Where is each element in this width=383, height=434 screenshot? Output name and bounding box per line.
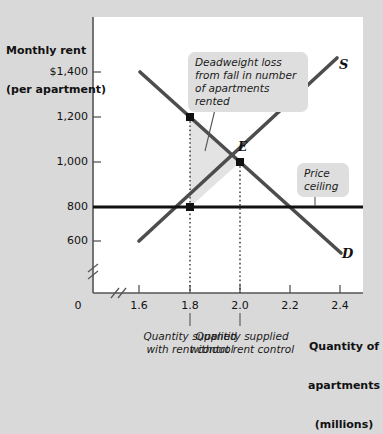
y-tick-label-1400: $1,400 <box>20 65 88 78</box>
price-ceiling-callout-line2: ceiling <box>304 180 342 193</box>
x-tick-label-1-8: 1.8 <box>170 299 210 312</box>
y-axis-title-line1: Monthly rent <box>6 44 90 57</box>
y-tick-label-1200: 1,200 <box>20 110 88 123</box>
price-ceiling-callout: Price ceiling <box>297 163 349 197</box>
y-tick-label-800: 800 <box>20 200 88 213</box>
x-axis-origin-label: 0 <box>68 299 88 312</box>
x-tick-label-1-6: 1.6 <box>119 299 159 312</box>
supply-curve-label: S <box>339 57 348 72</box>
equilibrium-point-label: E <box>238 140 247 154</box>
x-axis-title-line3: (millions) <box>306 418 382 431</box>
note-without-rent-control-line1: Quantity supplied <box>173 330 311 343</box>
deadweight-loss-callout-line1: Deadweight loss <box>195 56 301 69</box>
y-axis-ticks <box>93 72 101 241</box>
deadweight-loss-callout: Deadweight loss from fall in number of a… <box>188 52 308 112</box>
x-axis-title-line2: apartments <box>306 379 382 392</box>
y-tick-label-600: 600 <box>20 234 88 247</box>
demand-curve-label: D <box>342 246 353 261</box>
x-tick-label-2-4: 2.4 <box>320 299 360 312</box>
price-ceiling-callout-line1: Price <box>304 167 342 180</box>
y-tick-label-1000: 1,000 <box>20 155 88 168</box>
marker-equilibrium <box>236 158 244 166</box>
x-tick-label-2-2: 2.2 <box>270 299 310 312</box>
x-tick-label-2-0: 2.0 <box>220 299 260 312</box>
deadweight-loss-callout-line3: of apartments rented <box>195 82 301 108</box>
marker-demand-at-rent-control <box>186 113 194 121</box>
x-axis-title-line1: Quantity of <box>306 340 382 353</box>
x-axis-title: Quantity of apartments (millions) <box>306 314 382 434</box>
y-axis-title-line2: (per apartment) <box>6 83 90 96</box>
note-quantity-supplied-without-rent-control: Quantity supplied without rent control <box>173 330 311 356</box>
deadweight-loss-callout-line2: from fall in number <box>195 69 301 82</box>
note-without-rent-control-line2: without rent control <box>173 343 311 356</box>
deadweight-loss-triangle <box>190 117 240 207</box>
marker-supply-at-rent-control <box>186 203 194 211</box>
